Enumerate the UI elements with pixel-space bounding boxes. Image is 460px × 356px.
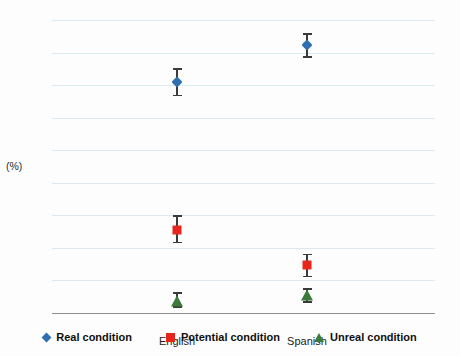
gridline: [52, 85, 435, 86]
plot-area: 0102030405060708090EnglishSpanish: [52, 20, 435, 313]
gridline: [52, 118, 435, 119]
error-bar-cap-upper: [173, 292, 182, 294]
y-axis-unit-label: (%): [6, 160, 22, 172]
triangle-marker-icon: [314, 333, 324, 342]
gridline: [52, 53, 435, 54]
legend-item[interactable]: Unreal condition: [314, 331, 417, 343]
gridline: [52, 248, 435, 249]
error-bar-cap-lower: [173, 306, 182, 308]
legend-item[interactable]: Real condition: [43, 331, 132, 343]
chart-legend: Real conditionPotential conditionUnreal …: [0, 331, 460, 343]
triangle-marker-icon: [171, 295, 183, 306]
gridline: [52, 215, 435, 216]
x-axis-line: [52, 313, 435, 314]
diamond-marker-icon: [42, 332, 52, 342]
legend-item-label: Potential condition: [181, 331, 280, 343]
data-point: [297, 20, 317, 313]
gridline: [52, 20, 435, 21]
chart-figure: (%) 0102030405060708090EnglishSpanish Re…: [0, 0, 460, 356]
legend-item[interactable]: Potential condition: [166, 331, 280, 343]
gridline: [52, 280, 435, 281]
legend-item-label: Real condition: [56, 331, 132, 343]
legend-item-label: Unreal condition: [330, 331, 417, 343]
square-marker-icon: [166, 333, 175, 342]
error-bar-cap-lower: [303, 301, 312, 303]
data-point: [167, 20, 187, 313]
gridline: [52, 150, 435, 151]
gridline: [52, 183, 435, 184]
triangle-marker-icon: [301, 289, 313, 300]
